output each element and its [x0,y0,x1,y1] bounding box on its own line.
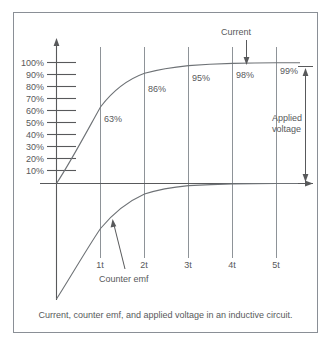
data-label-86-percent: 86% [148,84,166,94]
y-tick-label-70: 70% [10,94,44,104]
current-curve [57,63,301,184]
y-axis-arrowhead-icon [54,38,60,46]
y-axis-ticks [47,63,76,171]
x-tick-label-5t: 5t [267,260,285,270]
counter-emf-annotation-label: Counter emf [99,274,149,284]
figure-container: 100% 90% 80% 70% 60% 50% 40% 30% 20% 10%… [0,0,332,344]
applied-voltage-down-arrowhead-icon [303,174,309,182]
figure-caption: Current, counter emf, and applied voltag… [13,310,318,320]
applied-voltage-up-arrowhead-icon [303,68,309,76]
y-tick-label-10: 10% [10,166,44,176]
data-label-99-percent: 99% [280,66,298,76]
y-tick-label-30: 30% [10,142,44,152]
applied-voltage-line-2: voltage [272,124,301,134]
counter-emf-curve [57,184,301,300]
y-tick-label-100: 100% [10,58,44,68]
y-tick-label-40: 40% [10,130,44,140]
counter-emf-arrowhead-icon [111,219,117,228]
y-tick-label-60: 60% [10,106,44,116]
inductive-circuit-plot [0,0,332,344]
data-label-63-percent: 63% [104,114,122,124]
y-tick-label-90: 90% [10,70,44,80]
applied-voltage-line-1: Applied [272,113,302,123]
y-tick-label-50: 50% [10,118,44,128]
y-tick-label-20: 20% [10,154,44,164]
current-annotation-label: Current [221,27,251,37]
x-axis-ticks [101,252,277,258]
data-label-98-percent: 98% [236,70,254,80]
x-tick-label-2t: 2t [135,260,153,270]
data-label-95-percent: 95% [192,73,210,83]
x-tick-label-1t: 1t [91,260,109,270]
x-tick-label-4t: 4t [223,260,241,270]
x-tick-label-3t: 3t [179,260,197,270]
counter-emf-leader-line [114,225,125,269]
current-callout-arrowhead-icon [244,57,250,65]
applied-voltage-annotation-label: Applied voltage [272,113,306,135]
y-tick-label-80: 80% [10,82,44,92]
